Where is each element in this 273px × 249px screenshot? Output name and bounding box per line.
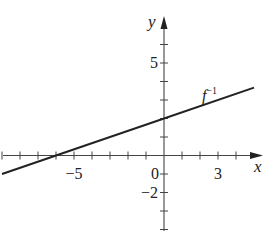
function-graph: −5035−2 x y f−1 bbox=[0, 0, 273, 249]
y-axis-arrow-icon bbox=[161, 16, 168, 29]
x-tick-label: −5 bbox=[65, 165, 82, 182]
series bbox=[2, 88, 254, 174]
x-tick-label: 3 bbox=[214, 165, 222, 182]
y-tick-label: −2 bbox=[141, 184, 158, 201]
axes bbox=[3, 16, 263, 231]
x-tick-label: 0 bbox=[151, 165, 159, 182]
y-axis-label: y bbox=[146, 12, 156, 31]
curve-label-superscript: −1 bbox=[206, 85, 217, 96]
ticks bbox=[2, 45, 236, 230]
tick-labels: −5035−2 bbox=[65, 54, 222, 201]
y-tick-label: 5 bbox=[150, 54, 158, 71]
f-inverse-line bbox=[2, 88, 254, 174]
x-axis-label: x bbox=[253, 157, 262, 176]
